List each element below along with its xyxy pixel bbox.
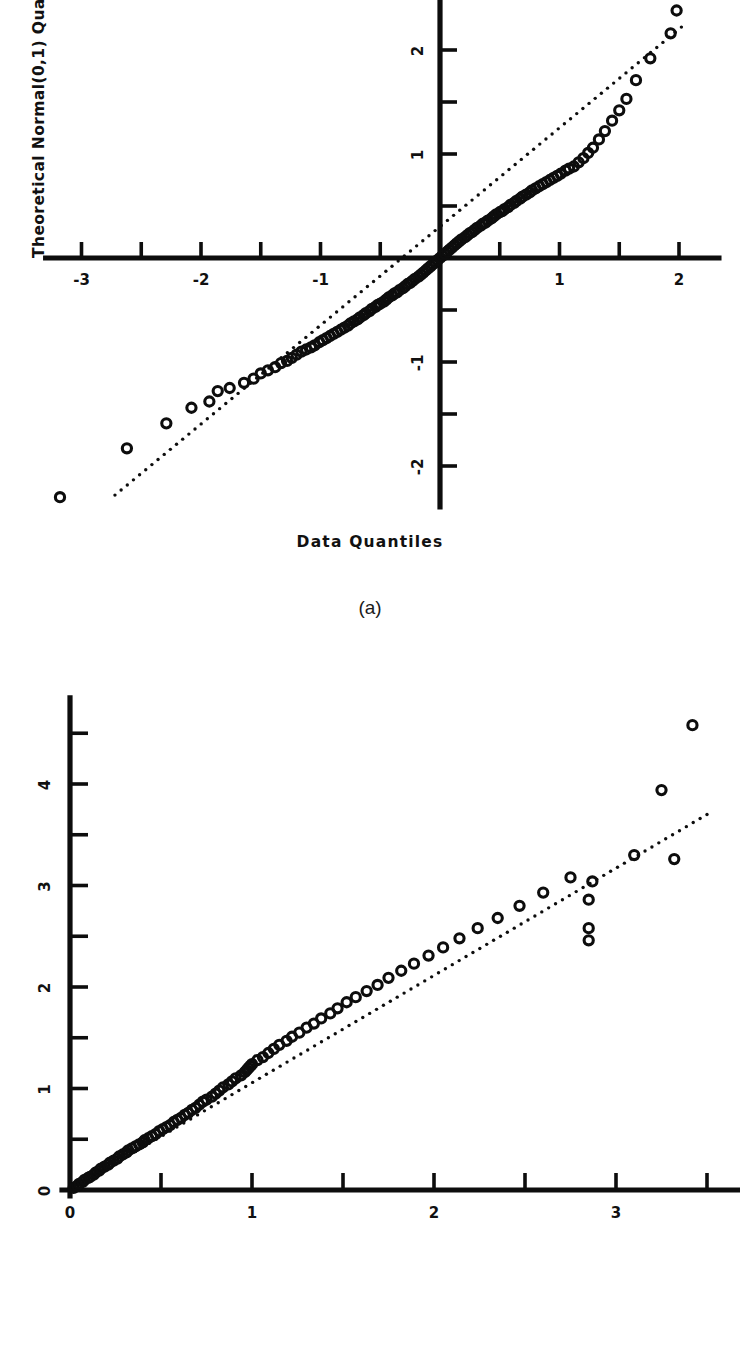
axis-tick-label: 1 <box>554 271 564 289</box>
axis-tick-label: 3 <box>611 1204 621 1222</box>
data-point <box>409 959 418 968</box>
data-point <box>584 924 593 933</box>
data-point <box>213 387 222 396</box>
data-point <box>607 116 616 125</box>
axis-tick-label: -3 <box>73 271 90 289</box>
data-point <box>384 973 393 982</box>
data-point <box>630 850 639 859</box>
axis-tick-label: 1 <box>247 1204 257 1222</box>
data-point <box>397 966 406 975</box>
data-point <box>55 493 64 502</box>
panel-a-y-axis-title: Theoretical Normal(0,1) Quantiles <box>30 0 48 258</box>
panel-b: 012301234 Theoretical Exponential(1) Qua… <box>0 660 740 1360</box>
axis-tick-label: 2 <box>429 1204 439 1222</box>
data-point <box>187 403 196 412</box>
data-point <box>317 1014 326 1023</box>
panel-a-caption: (a) <box>0 597 740 619</box>
axis-tick-label: 1 <box>409 150 427 160</box>
data-point <box>362 986 371 995</box>
data-point <box>670 855 679 864</box>
data-point <box>473 924 482 933</box>
axis-tick-label: 0 <box>65 1204 75 1222</box>
data-point <box>646 54 655 63</box>
axis-tick-label: -1 <box>409 355 427 372</box>
data-point <box>122 444 131 453</box>
axis-tick-label: 2 <box>36 983 54 993</box>
data-point <box>333 1004 342 1013</box>
data-point <box>666 29 675 38</box>
data-point <box>566 873 575 882</box>
data-point <box>205 397 214 406</box>
axis-tick-label: 2 <box>409 46 427 56</box>
data-point <box>631 76 640 85</box>
data-point <box>615 106 624 115</box>
data-point <box>672 6 681 15</box>
axis-tick-label: -2 <box>193 271 210 289</box>
axis-tick-label: 3 <box>36 881 54 891</box>
data-point <box>493 913 502 922</box>
data-point <box>342 998 351 1007</box>
axis-tick-label: -1 <box>312 271 329 289</box>
data-point <box>584 936 593 945</box>
axis-tick-label: 2 <box>674 271 684 289</box>
data-point <box>162 419 171 428</box>
data-point <box>439 943 448 952</box>
data-point <box>588 877 597 886</box>
data-point <box>584 895 593 904</box>
data-point <box>657 785 666 794</box>
axis-tick-label: 1 <box>36 1084 54 1094</box>
axis-tick-label: 0 <box>36 1186 54 1196</box>
axis-tick-label: -2 <box>409 459 427 476</box>
data-point <box>600 127 609 136</box>
data-point <box>225 383 234 392</box>
reference-line <box>113 25 683 496</box>
panel-a-x-axis-title: Data Quantiles <box>0 533 740 551</box>
data-point <box>351 993 360 1002</box>
qq-plot-normal: -3-2-112-2-112 <box>0 0 740 560</box>
axis-tick-label: 4 <box>36 780 54 790</box>
data-point <box>373 980 382 989</box>
data-point <box>239 378 248 387</box>
data-point <box>515 901 524 910</box>
data-point <box>622 94 631 103</box>
data-point <box>455 934 464 943</box>
data-point <box>688 721 697 730</box>
panel-a: -3-2-112-2-112 Theoretical Normal(0,1) Q… <box>0 0 740 660</box>
data-point <box>424 951 433 960</box>
data-point <box>539 888 548 897</box>
qq-plot-exponential: 012301234 <box>0 660 740 1260</box>
